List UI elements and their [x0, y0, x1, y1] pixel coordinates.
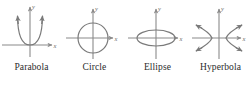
y-axis-label-ellipse: y	[157, 5, 161, 12]
x-axis-label-hyperbola: x	[242, 35, 246, 42]
hyperbola-arrow-lower-right	[236, 48, 242, 51]
caption-circle: Circle	[63, 62, 126, 73]
panel-circle: y x Circle	[63, 0, 126, 85]
x-axis-label-circle: x	[114, 35, 118, 42]
panel-parabola: y x Parabola	[0, 0, 63, 85]
parabola-arrow-left	[18, 16, 19, 24]
y-axis-label-parabola: y	[31, 3, 35, 10]
caption-parabola: Parabola	[0, 62, 63, 73]
x-axis-label-ellipse: x	[179, 35, 183, 42]
y-axis-label-circle: y	[94, 5, 98, 12]
parabola-arrow-right	[42, 16, 43, 24]
hyperbola-arrow-upper-left	[196, 25, 202, 28]
caption-hyperbola: Hyperbola	[189, 62, 252, 73]
panel-hyperbola: y x Hyperbola	[189, 0, 252, 85]
hyperbola-arrow-upper-right	[236, 25, 242, 28]
parabola-diagram: y x	[0, 0, 63, 63]
circle-diagram: y x	[63, 0, 126, 63]
y-axis-label-hyperbola: y	[220, 5, 224, 12]
x-axis-label-parabola: x	[53, 42, 57, 49]
hyperbola-arrow-lower-left	[196, 48, 202, 51]
panel-ellipse: y x Ellipse	[126, 0, 189, 85]
caption-ellipse: Ellipse	[126, 62, 189, 73]
hyperbola-diagram: y x	[189, 0, 252, 63]
conic-sections-figure: y x Parabola y x Circle	[0, 0, 252, 85]
ellipse-diagram: y x	[126, 0, 189, 63]
